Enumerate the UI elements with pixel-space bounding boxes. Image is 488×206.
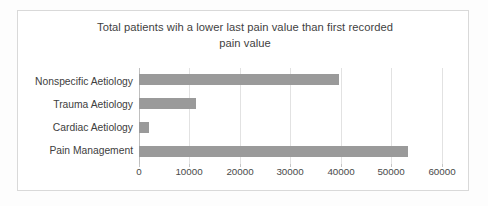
tick-label-40000: 40000 bbox=[327, 166, 354, 177]
tick-label-30000: 30000 bbox=[276, 166, 303, 177]
category-label-cardiac-aetiology: Cardiac Aetiology bbox=[53, 116, 133, 139]
category-label-pain-management: Pain Management bbox=[49, 139, 133, 162]
category-label-nonspecific-aetiology: Nonspecific Aetiology bbox=[35, 70, 133, 93]
value-axis-tick-labels: 0 10000 20000 30000 40000 50000 60000 bbox=[139, 166, 443, 182]
bar-nonspecific-aetiology bbox=[139, 74, 339, 85]
bar-pain-management bbox=[139, 146, 408, 157]
plot-wrap: Nonspecific Aetiology Trauma Aetiology C… bbox=[18, 11, 470, 192]
tick-label-50000: 50000 bbox=[377, 166, 404, 177]
bar-cardiac-aetiology bbox=[139, 122, 149, 133]
tick-label-20000: 20000 bbox=[226, 166, 253, 177]
bar-row-trauma-aetiology bbox=[139, 92, 443, 116]
plot-area bbox=[139, 68, 443, 164]
tick-label-60000: 60000 bbox=[428, 166, 455, 177]
bar-row-cardiac-aetiology bbox=[139, 116, 443, 140]
bar-row-nonspecific-aetiology bbox=[139, 68, 443, 92]
tick-label-10000: 10000 bbox=[175, 166, 202, 177]
bar-row-pain-management bbox=[139, 140, 443, 164]
category-axis-labels: Nonspecific Aetiology Trauma Aetiology C… bbox=[18, 70, 137, 162]
tick-label-0: 0 bbox=[136, 166, 141, 177]
bar-trauma-aetiology bbox=[139, 98, 196, 109]
category-label-trauma-aetiology: Trauma Aetiology bbox=[53, 93, 133, 116]
chart-card: Total patients wih a lower last pain val… bbox=[17, 10, 469, 191]
page-background: Total patients wih a lower last pain val… bbox=[0, 0, 488, 206]
